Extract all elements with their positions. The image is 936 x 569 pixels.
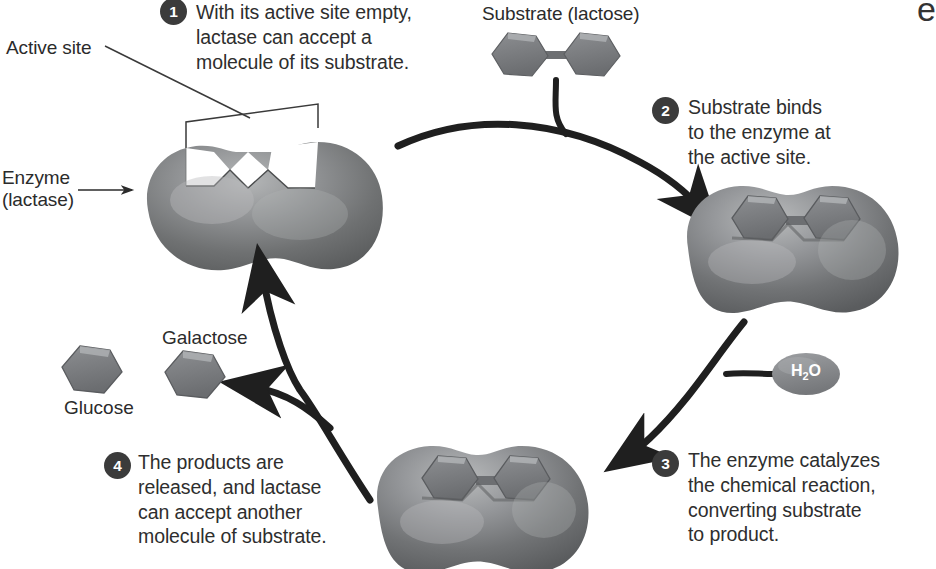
- step-3-text: The enzyme catalyzes the chemical reacti…: [688, 448, 928, 547]
- step-badge-3: 3: [652, 450, 679, 477]
- active-site-label: Active site: [6, 36, 92, 59]
- step-2-text: Substrate binds to the enzyme at the act…: [688, 95, 908, 169]
- water-molecule-pill: [772, 353, 840, 395]
- step-4-text: The products are released, and lactase c…: [138, 450, 388, 549]
- enzyme-label-line2: (lactase): [2, 188, 74, 211]
- enzyme-substrate-bound: [687, 186, 898, 313]
- step-badge-4: 4: [104, 452, 131, 479]
- enzyme-catalyzing: [377, 446, 588, 569]
- step-badge-2: 2: [652, 97, 679, 124]
- water-input-line: [726, 373, 780, 374]
- galactose-label: Galactose: [162, 326, 248, 349]
- enzyme-empty-active-site: [147, 142, 383, 270]
- substrate-label: Substrate (lactose): [482, 2, 640, 25]
- step-1-text: With its active site empty, lactase can …: [196, 0, 446, 74]
- clipped-edge-character: e: [917, 0, 936, 29]
- glucose-label: Glucose: [64, 396, 134, 419]
- enzyme-label-line1: Enzyme: [2, 166, 70, 189]
